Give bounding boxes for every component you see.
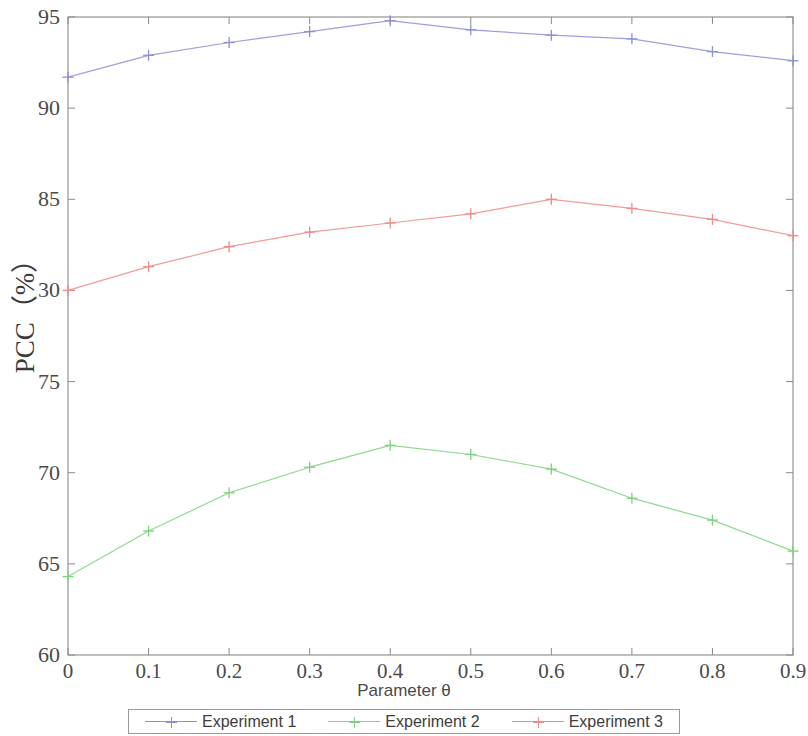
data-point-marker — [63, 72, 74, 83]
legend-entry-2: Experiment 2 — [326, 713, 481, 731]
legend-entry-3: Experiment 3 — [510, 713, 665, 731]
data-point-marker — [707, 46, 718, 57]
data-point-marker — [224, 37, 235, 48]
data-point-marker — [63, 285, 74, 296]
data-point-marker — [304, 26, 315, 37]
legend-marker-icon — [328, 715, 380, 729]
legend-marker-icon — [512, 715, 564, 729]
data-point-marker — [546, 464, 557, 475]
data-point-marker — [224, 487, 235, 498]
legend-entry-1: Experiment 1 — [143, 713, 298, 731]
data-point-marker — [465, 449, 476, 460]
data-point-marker — [626, 203, 637, 214]
legend: Experiment 1Experiment 2Experiment 3 — [128, 709, 680, 734]
data-point-marker — [465, 24, 476, 35]
data-point-marker — [788, 546, 799, 557]
data-point-marker — [465, 208, 476, 219]
x-axis-label: Parameter θ — [0, 681, 808, 701]
legend-label: Experiment 2 — [385, 713, 479, 731]
legend-label: Experiment 1 — [202, 713, 296, 731]
data-point-marker — [304, 462, 315, 473]
series-2 — [63, 440, 799, 582]
data-point-marker — [546, 194, 557, 205]
data-point-marker — [143, 261, 154, 272]
data-point-marker — [304, 227, 315, 238]
data-point-marker — [788, 230, 799, 241]
legend-marker-icon — [145, 715, 197, 729]
series-1 — [63, 15, 799, 83]
plot-area — [0, 0, 808, 736]
data-point-marker — [707, 515, 718, 526]
series-3 — [63, 194, 799, 296]
data-point-marker — [626, 493, 637, 504]
data-point-marker — [63, 571, 74, 582]
data-point-marker — [385, 217, 396, 228]
chart-figure: PCC（%） 9590853075706560 00.10.20.30.40.5… — [0, 0, 808, 736]
data-point-marker — [707, 214, 718, 225]
data-point-marker — [224, 241, 235, 252]
data-point-marker — [546, 30, 557, 41]
legend-label: Experiment 3 — [569, 713, 663, 731]
data-point-marker — [626, 33, 637, 44]
data-point-marker — [385, 440, 396, 451]
data-point-marker — [143, 50, 154, 61]
data-point-marker — [788, 55, 799, 66]
plot-frame — [68, 17, 793, 655]
data-point-marker — [143, 526, 154, 537]
